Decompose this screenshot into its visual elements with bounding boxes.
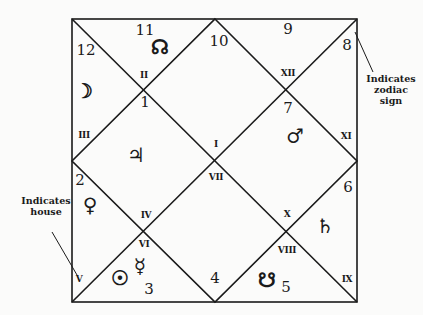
house-numeral-iii: III <box>78 131 90 140</box>
house-numeral-viii: VIII <box>278 246 296 255</box>
zodiac-sign-annotation: Indicates zodiac sign <box>362 74 420 107</box>
zodiac-note-line-3: sign <box>362 96 420 107</box>
house-numeral-xi: XI <box>341 132 352 141</box>
sign-number-4: 4 <box>210 271 220 286</box>
house-numeral-i: I <box>214 140 218 149</box>
house-note-pointer <box>52 232 77 275</box>
sign-number-1: 1 <box>140 95 150 110</box>
north-node-icon: ☊ <box>151 37 169 57</box>
sign-number-2: 2 <box>75 173 85 188</box>
sign-number-12: 12 <box>76 43 95 58</box>
house-numeral-x: X <box>284 210 291 219</box>
jupiter-icon: ♃ <box>127 145 145 165</box>
moon-icon: ☽ <box>75 81 93 101</box>
mars-icon: ♂ <box>286 126 304 146</box>
house-numeral-ix: IX <box>342 275 353 284</box>
sun-icon: ☉ <box>111 268 129 288</box>
house-numeral-vi: VI <box>139 240 150 249</box>
house-annotation: Indicates house <box>18 196 74 218</box>
sign-number-8: 8 <box>342 38 352 53</box>
house-note-line-2: house <box>18 207 74 218</box>
saturn-icon: ♄ <box>316 216 334 236</box>
house-numeral-ii: II <box>140 71 148 80</box>
house-numeral-iv: IV <box>141 211 152 220</box>
sign-number-6: 6 <box>343 180 353 195</box>
sign-number-7: 7 <box>283 101 293 116</box>
house-numeral-vii: VII <box>209 173 224 182</box>
sign-number-9: 9 <box>283 22 293 37</box>
sign-number-3: 3 <box>144 282 154 297</box>
south-node-icon: ☋ <box>258 270 276 290</box>
mercury-icon: ☿ <box>134 256 146 276</box>
sign-number-5: 5 <box>281 280 291 295</box>
sign-number-10: 10 <box>209 34 228 49</box>
venus-icon: ♀ <box>83 195 98 215</box>
house-numeral-v: V <box>76 275 83 284</box>
house-numeral-xii: XII <box>281 69 296 78</box>
